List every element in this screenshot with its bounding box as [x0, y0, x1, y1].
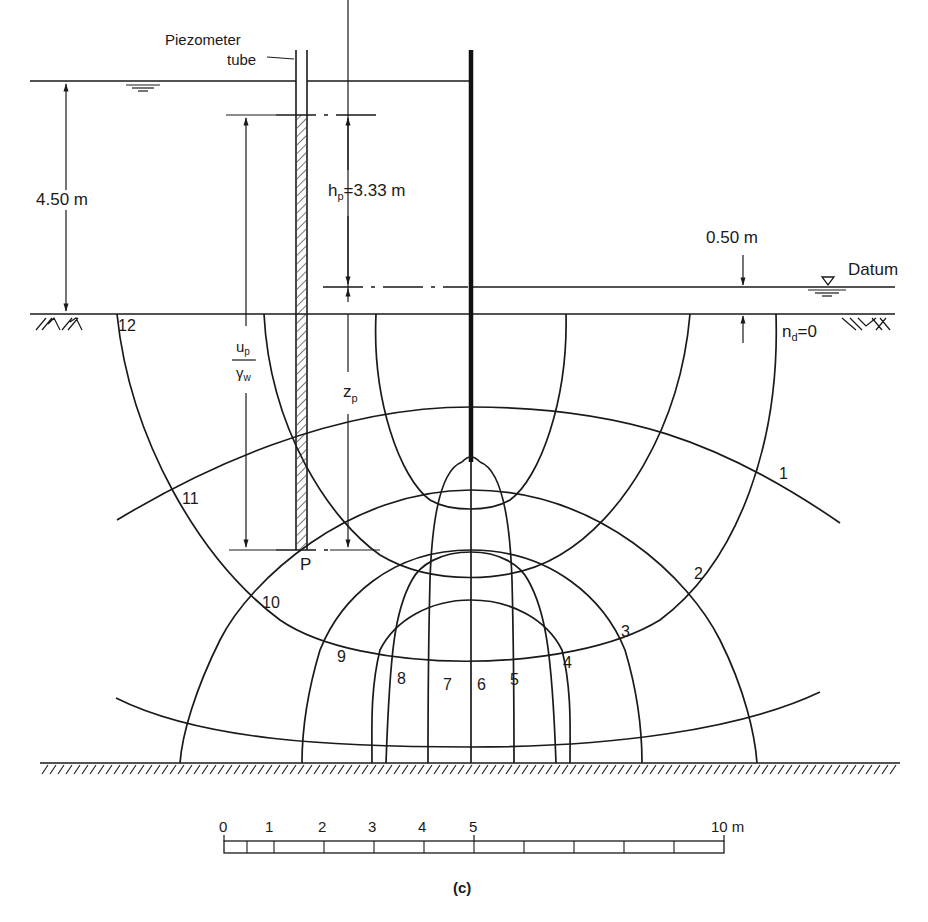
svg-text:γw: γw	[236, 364, 252, 383]
svg-text:4: 4	[418, 818, 426, 835]
point-p-label: P	[300, 555, 311, 574]
svg-text:6: 6	[477, 676, 486, 693]
svg-text:3: 3	[368, 818, 376, 835]
svg-text:1: 1	[265, 818, 273, 835]
flow-net-diagram: 1 2 3 4 5 6 7 8 9 10 11 12 Piezometer tu…	[0, 0, 928, 922]
piezometer-tube	[267, 50, 307, 550]
svg-text:8: 8	[397, 670, 406, 687]
svg-text:1: 1	[779, 465, 788, 482]
svg-text:11: 11	[182, 490, 199, 507]
ground-surface	[30, 314, 895, 330]
figure-caption: (c)	[453, 879, 471, 896]
scale-bar: 0 1 2 3 4 5 10 m	[219, 818, 744, 853]
svg-text:2: 2	[694, 565, 703, 582]
downstream-head-label: 0.50 m	[706, 228, 758, 247]
downstream-water-surface	[473, 277, 895, 296]
svg-text:9: 9	[337, 648, 346, 665]
svg-text:10 m: 10 m	[711, 818, 744, 835]
flow-line-3	[117, 314, 776, 661]
svg-text:10: 10	[262, 594, 280, 611]
up-over-gamma-w-label: up γw	[232, 338, 256, 383]
equipotential-number-labels: 1 2 3 4 5 6 7 8 9 10 11 12	[118, 317, 788, 693]
svg-text:5: 5	[510, 671, 519, 688]
svg-text:0: 0	[219, 818, 227, 835]
impermeable-base	[40, 763, 900, 774]
piezometer-label-1: Piezometer	[165, 31, 241, 48]
svg-text:2: 2	[318, 818, 326, 835]
flow-line-4	[116, 692, 820, 747]
svg-text:12: 12	[118, 317, 136, 334]
svg-text:up: up	[236, 338, 250, 357]
svg-text:3: 3	[621, 623, 630, 640]
upstream-head-label: 4.50 m	[36, 190, 88, 209]
datum-label: Datum	[848, 260, 898, 279]
svg-text:5: 5	[469, 818, 477, 835]
nd-label: nd=0	[782, 322, 817, 343]
svg-text:4: 4	[563, 654, 572, 671]
upstream-water-surface	[30, 81, 469, 91]
zp-label: zp	[343, 382, 358, 404]
flow-lines	[116, 314, 820, 747]
hp-label: hp=3.33 m	[328, 181, 406, 202]
svg-text:7: 7	[443, 676, 452, 693]
piezometer-label-2: tube	[227, 51, 256, 68]
